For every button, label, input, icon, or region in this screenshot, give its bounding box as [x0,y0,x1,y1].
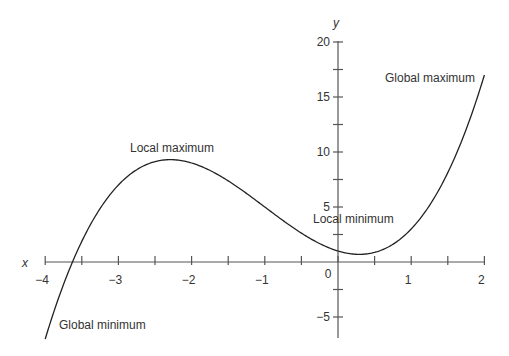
x-tick-label: 0 [325,267,332,281]
x-tick-label: 2 [478,273,485,287]
x-tick-label: 1 [405,273,412,287]
x-tick-label: −2 [182,273,196,287]
x-tick-label: −3 [109,273,123,287]
y-tick-label: 10 [317,145,331,159]
annotation-local-minimum: Local minimum [313,212,394,226]
y-axis-label: y [332,16,340,30]
x-axis-label: x [21,256,29,270]
y-tick-label: 15 [317,90,331,104]
annotation-global-minimum: Global minimum [59,318,146,332]
x-tick-label: −1 [255,273,269,287]
x-tick-label: −4 [35,273,49,287]
function-curve [45,75,484,339]
y-tick-label: 20 [317,35,331,49]
function-plot: −4−3−2−1012 2015105−5 x y Global maximum… [0,0,509,356]
annotation-local-maximum: Local maximum [130,141,214,155]
y-tick-label: −5 [316,310,330,324]
annotation-global-maximum: Global maximum [385,71,475,85]
